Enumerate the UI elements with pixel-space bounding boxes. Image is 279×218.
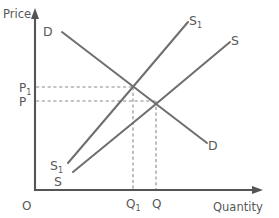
x-axis-title: Quantity	[213, 200, 263, 214]
supply-bottom-label: S	[54, 174, 62, 189]
curves-group	[62, 22, 230, 172]
demand-top-label: D	[43, 24, 53, 39]
supply1-bottom-label: S1	[50, 158, 63, 175]
price-tick-labels: P1 P	[19, 81, 31, 109]
demand-bottom-label: D	[208, 138, 218, 153]
supply-top-label: S	[231, 33, 239, 48]
supply-curve	[73, 42, 230, 172]
y-axis-arrow-icon	[31, 8, 39, 19]
quantity1-tick-label: Q1	[126, 197, 141, 213]
supply1-top-label: S1	[189, 13, 202, 30]
quantity-tick-labels: Q1 Q	[126, 197, 161, 213]
y-axis-title: Price	[3, 7, 31, 21]
quantity-tick-label: Q	[152, 197, 161, 211]
x-axis-arrow-icon	[252, 186, 263, 194]
diagram-page: Price Quantity O P1 P Q1 Q D	[0, 0, 279, 218]
origin-label: O	[22, 199, 31, 213]
price-tick-label: P	[19, 95, 26, 109]
supply-demand-figure: Price Quantity O P1 P Q1 Q D	[0, 0, 279, 218]
